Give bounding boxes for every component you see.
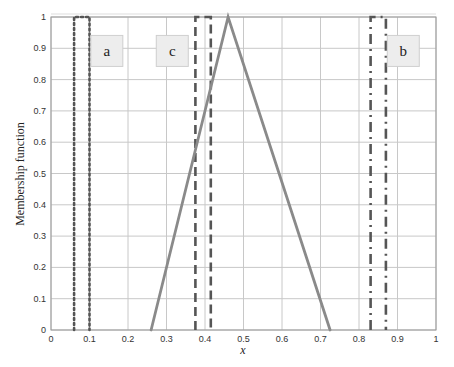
x-tick-label: 0.1 (83, 334, 96, 344)
annotation-label: b (400, 43, 408, 59)
y-tick-label: 0.4 (33, 200, 46, 210)
y-tick-label: 1 (41, 12, 46, 22)
y-tick-label: 0 (41, 325, 46, 335)
y-tick-label: 0.6 (33, 137, 46, 147)
annotation-box-b: b (387, 35, 419, 66)
x-axis-label: x (239, 343, 246, 357)
x-tick-label: 0.3 (160, 334, 173, 344)
x-tick-label: 0.4 (199, 334, 212, 344)
x-tick-label: 0.9 (391, 334, 404, 344)
y-tick-label: 0.3 (33, 231, 46, 241)
y-tick-label: 0.7 (33, 106, 46, 116)
x-tick-label: 0.2 (122, 334, 135, 344)
annotation-label: a (103, 43, 110, 59)
x-tick-label: 0.6 (276, 334, 289, 344)
y-tick-label: 0.1 (33, 294, 46, 304)
x-tick-label: 0.7 (314, 334, 327, 344)
annotation-box-a: a (91, 35, 123, 66)
y-tick-label: 0.8 (33, 75, 46, 85)
y-tick-label: 0.9 (33, 43, 46, 53)
membership-function-chart: acb 00.10.20.30.40.50.60.70.80.91 00.10.… (0, 0, 454, 367)
x-tick-label: 0 (48, 334, 53, 344)
y-tick-label: 0.5 (33, 169, 46, 179)
y-axis-label: Membership function (13, 122, 27, 226)
y-tick-label: 0.2 (33, 262, 46, 272)
annotation-label: c (169, 43, 176, 59)
x-tick-label: 1 (433, 334, 438, 344)
annotation-box-c: c (156, 35, 188, 66)
x-tick-label: 0.8 (353, 334, 366, 344)
